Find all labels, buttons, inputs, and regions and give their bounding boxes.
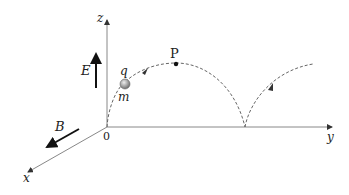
x-axis-label: x	[23, 172, 30, 184]
magnetic-field-label: B	[55, 120, 65, 133]
electric-field-label: E	[81, 64, 91, 77]
z-axis-label: z	[97, 12, 103, 24]
origin-label: 0	[103, 131, 110, 142]
trajectory-arrow-1	[142, 68, 148, 75]
mass-label: m	[118, 91, 129, 103]
y-axis-label: y	[327, 131, 334, 143]
trajectory-path-2	[245, 64, 313, 127]
charge-label: q	[120, 65, 128, 77]
x-axis	[28, 127, 107, 172]
diagram-canvas	[0, 0, 349, 195]
point-p-marker	[174, 62, 178, 66]
particle	[120, 79, 130, 89]
point-p-label: P	[170, 47, 179, 60]
